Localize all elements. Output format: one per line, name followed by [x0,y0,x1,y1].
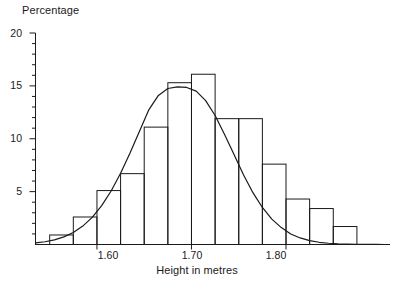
histogram-bar [333,227,357,245]
histogram-bar [168,83,192,245]
histogram-bars [50,74,357,244]
histogram-bar [191,74,215,244]
histogram-bar [262,164,286,244]
histogram-bar [97,191,121,245]
axis-lines [35,33,390,245]
x-axis-ticks [97,245,286,250]
histogram-bar [239,119,263,245]
histogram-bar [144,127,168,244]
histogram-bar [310,209,334,245]
y-axis-ticks [30,33,36,234]
histogram-bar [286,199,310,244]
plot-area [0,0,394,290]
histogram-bar [215,119,239,245]
histogram-figure: Percentage 20 15 10 5 1.60 1.70 1.80 Hei… [0,0,394,290]
histogram-bar [121,174,145,245]
